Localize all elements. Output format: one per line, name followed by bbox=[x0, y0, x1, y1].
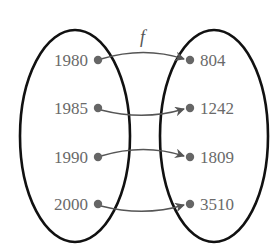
domain-point-1980 bbox=[94, 56, 102, 64]
domain-point-2000 bbox=[94, 200, 102, 208]
range-label: 3510 bbox=[200, 195, 234, 214]
mapping-arrow-1990-1809 bbox=[101, 150, 184, 157]
mapping-arrow-1985-1242 bbox=[101, 109, 184, 115]
function-mapping-diagram: f 1980 1985 1990 2000 804 1242 1809 3510 bbox=[0, 0, 279, 251]
range-point-1242 bbox=[186, 104, 194, 112]
domain-label: 1985 bbox=[54, 99, 88, 118]
function-label: f bbox=[140, 27, 148, 47]
range-point-804 bbox=[186, 56, 194, 64]
domain-label: 1980 bbox=[54, 51, 88, 70]
range-label: 1809 bbox=[200, 148, 234, 167]
range-point-3510 bbox=[186, 200, 194, 208]
domain-label: 1990 bbox=[54, 148, 88, 167]
range-label: 804 bbox=[200, 51, 226, 70]
range-point-1809 bbox=[186, 153, 194, 161]
domain-point-1990 bbox=[94, 153, 102, 161]
domain-label: 2000 bbox=[54, 195, 88, 214]
domain-point-1985 bbox=[94, 104, 102, 112]
range-label: 1242 bbox=[200, 99, 234, 118]
